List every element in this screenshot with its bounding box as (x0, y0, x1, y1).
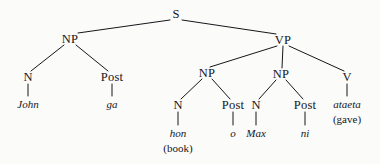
tree-edge-np1-to-n1 (31, 45, 64, 71)
tree-edge-np2-to-n2 (181, 79, 202, 99)
tree-node-hon_gl: (book) (163, 143, 192, 154)
tree-edge-vp-to-v (289, 46, 344, 71)
tree-edge-np1-to-post1 (76, 45, 108, 71)
tree-node-o: o (230, 128, 236, 139)
syntax-tree-diagram: SNPVPNPostNPNPVNPostNPostJohngahon(book)… (0, 0, 380, 164)
tree-node-n1: N (23, 71, 32, 84)
tree-edge-vp-to-np3 (282, 46, 283, 68)
tree-node-np2: NP (199, 67, 215, 80)
tree-edge-s-to-np1 (78, 20, 170, 33)
tree-node-n2: N (173, 99, 182, 112)
tree-node-ataeta_gl: (gave) (333, 114, 361, 125)
tree-node-hon: hon (170, 128, 187, 139)
tree-branch-lines (0, 0, 380, 164)
tree-edge-np3-to-post3 (286, 80, 303, 99)
tree-node-max: Max (246, 128, 266, 139)
tree-node-post2: Post (222, 99, 244, 112)
tree-node-ni: ni (301, 128, 310, 139)
tree-node-np3: NP (273, 68, 289, 81)
tree-edge-vp-to-np2 (210, 46, 277, 67)
tree-node-ataeta: ataeta (333, 99, 361, 110)
tree-node-post3: Post (294, 99, 316, 112)
tree-edge-np3-to-n3 (259, 80, 276, 99)
tree-node-ga: ga (107, 99, 118, 110)
tree-node-john: John (17, 99, 38, 110)
tree-edge-np2-to-post2 (212, 79, 230, 99)
tree-node-s: S (172, 8, 179, 21)
tree-node-v: V (342, 71, 351, 84)
tree-edge-s-to-vp (182, 20, 276, 34)
tree-node-n3: N (251, 99, 260, 112)
tree-node-vp: VP (275, 34, 291, 47)
tree-node-np1: NP (62, 33, 78, 46)
tree-node-post1: Post (101, 71, 123, 84)
